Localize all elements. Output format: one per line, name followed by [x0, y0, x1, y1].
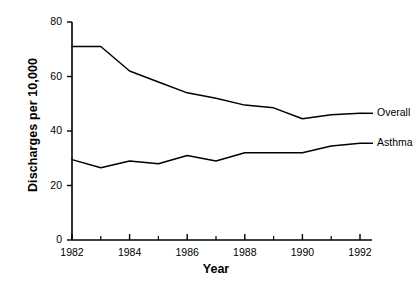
x-tick-label: 1986: [167, 246, 207, 258]
series-label-asthma: Asthma: [377, 136, 413, 148]
x-tick-label: 1988: [225, 246, 265, 258]
series-line-asthma: [72, 143, 360, 168]
series-label-overall: Overall: [377, 106, 410, 118]
y-tick-label: 0: [36, 233, 62, 245]
x-tick-label: 1982: [52, 246, 92, 258]
x-tick-label: 1992: [340, 246, 380, 258]
y-tick-label: 20: [36, 179, 62, 191]
series-line-overall: [72, 47, 360, 119]
x-tick-label: 1990: [282, 246, 322, 258]
y-tick-label: 80: [36, 15, 62, 27]
x-axis-label: Year: [72, 262, 360, 276]
y-tick-label: 60: [36, 70, 62, 82]
y-tick-label: 40: [36, 124, 62, 136]
x-tick-label: 1984: [110, 246, 150, 258]
chart-figure: Discharges per 10,000 Year 020406080 198…: [0, 0, 416, 290]
